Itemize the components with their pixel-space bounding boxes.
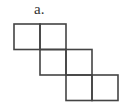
net-square-5: [66, 75, 92, 101]
net-square-4: [66, 50, 92, 76]
net-square-3: [40, 50, 66, 76]
net-square-6: [92, 75, 118, 101]
net-square-2: [40, 24, 66, 50]
net-square-1: [14, 24, 40, 50]
cube-net-diagram: [0, 0, 129, 109]
